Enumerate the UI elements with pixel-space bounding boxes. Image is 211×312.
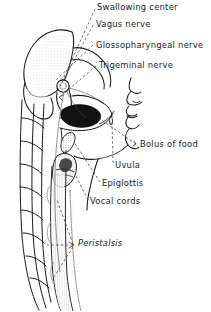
label-glossopharyngeal-nerve: Glossopharyngeal nerve — [96, 41, 203, 49]
label-epiglottis: Epiglottis — [102, 179, 143, 187]
leader-epiglottis — [74, 142, 100, 182]
label-trigeminal-nerve: Trigeminal nerve — [99, 61, 173, 69]
label-vagus-nerve: Vagus nerve — [96, 20, 151, 28]
figure-canvas: Swallowing center Vagus nerve Glossophar… — [0, 0, 211, 312]
peristaltic-wave-1 — [47, 186, 50, 204]
spine-posterior-border — [20, 100, 39, 310]
hard-palate-outline — [72, 95, 103, 103]
epiglottis-shape — [61, 133, 75, 153]
vertebra-line-4 — [20, 187, 42, 197]
lower-lip-outline — [126, 117, 139, 129]
swallowing-center-node — [57, 80, 69, 92]
label-bolus-of-food: Bolus of food — [140, 140, 198, 148]
leader-uvula — [112, 120, 113, 163]
oral-cavity-group — [60, 103, 114, 162]
nostril-line — [133, 101, 140, 103]
cervical-spine-group — [20, 100, 51, 310]
face-profile-group — [74, 78, 142, 210]
arrowhead-bolus — [133, 141, 136, 146]
label-peristalsis: Peristalsis — [78, 239, 122, 247]
soft-palate-outline — [103, 103, 112, 117]
label-swallowing-center: Swallowing center — [97, 3, 178, 11]
upper-lip-outline — [126, 106, 137, 116]
spine-mid-border — [32, 104, 46, 308]
jaw-underline — [74, 145, 128, 159]
vertebra-line-3 — [20, 164, 42, 174]
bolus-of-food-shape — [61, 105, 101, 128]
leader-vocal-cords — [75, 174, 88, 200]
label-vocal-cords: Vocal cords — [90, 197, 140, 205]
leader-bolus — [97, 117, 136, 144]
brainstem-outline — [57, 92, 60, 109]
label-uvula: Uvula — [115, 161, 140, 169]
